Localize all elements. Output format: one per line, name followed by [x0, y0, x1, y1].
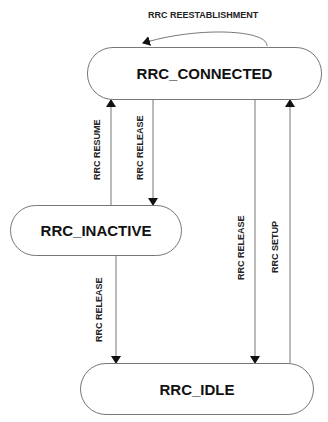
state-rrc-connected: RRC_CONNECTED — [87, 47, 322, 100]
label-release-connected-to-idle: RRC RELEASE — [236, 215, 246, 280]
label-setup: RRC SETUP — [270, 221, 280, 273]
arrow-reestablishment — [143, 32, 267, 46]
state-label: RRC_INACTIVE — [41, 222, 152, 239]
state-label: RRC_IDLE — [159, 381, 234, 398]
state-rrc-idle: RRC_IDLE — [80, 363, 314, 415]
state-rrc-inactive: RRC_INACTIVE — [10, 205, 182, 256]
state-label: RRC_CONNECTED — [137, 65, 273, 82]
label-release-inactive-to-idle: RRC RELEASE — [94, 277, 104, 342]
label-reestablishment: RRC REESTABLISHMENT — [148, 10, 258, 20]
label-resume: RRC RESUME — [92, 119, 102, 180]
label-release-to-inactive: RRC RELEASE — [135, 115, 145, 180]
